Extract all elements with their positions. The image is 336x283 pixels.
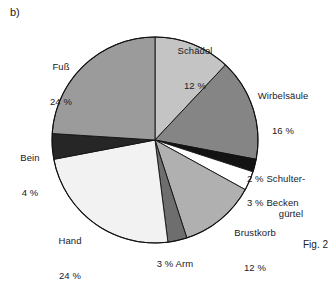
slice-label-brustkorb-name: Brustkorb xyxy=(218,227,292,239)
slice-label-hand-value: 24 % xyxy=(42,270,98,282)
panel-letter: b) xyxy=(10,6,20,18)
slice-label-brustkorb: Brustkorb 12 % xyxy=(218,204,292,283)
slice-label-fuss: Fuß 24 % xyxy=(34,38,88,130)
slice-label-bein: Bein 4 % xyxy=(6,129,54,221)
slice-label-hand: Hand 24 % xyxy=(42,212,98,283)
slice-label-arm: 3 % Arm xyxy=(140,235,210,283)
slice-label-fuss-value: 24 % xyxy=(34,96,88,108)
slice-label-hand-name: Hand xyxy=(42,235,98,247)
slice-label-schaedel: Schädel 12 % xyxy=(152,22,238,114)
slice-label-fuss-name: Fuß xyxy=(34,61,88,73)
slice-label-wirbelsaeule-name: Wirbelsäule xyxy=(234,90,332,102)
slice-label-brustkorb-value: 12 % xyxy=(218,262,292,274)
figure-caption: Fig. 2 xyxy=(303,239,328,250)
slice-label-schaedel-value: 12 % xyxy=(152,80,238,92)
slice-label-bein-value: 4 % xyxy=(6,187,54,199)
slice-label-wirbelsaeule-value: 16 % xyxy=(234,125,332,137)
slice-label-bein-name: Bein xyxy=(6,152,54,164)
slice-label-schaedel-name: Schädel xyxy=(152,45,238,57)
slice-label-wirbelsaeule: Wirbelsäule 16 % xyxy=(234,67,332,159)
slice-label-arm-line1: 3 % Arm xyxy=(140,258,210,270)
